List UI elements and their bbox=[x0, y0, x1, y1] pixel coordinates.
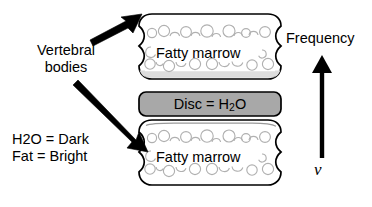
label-nu-symbol: ν bbox=[314, 160, 322, 180]
vertebral-body-top-endplate bbox=[139, 71, 281, 78]
label-vertebral-bodies-line2: bodies bbox=[14, 59, 118, 76]
label-fatty-marrow-top: Fatty marrow bbox=[156, 45, 241, 61]
label-frequency: Frequency bbox=[286, 30, 355, 47]
label-h2o-dark: H2O = Dark bbox=[12, 131, 89, 148]
label-fatty-marrow-bottom: Fatty marrow bbox=[156, 149, 241, 165]
label-signal-notes: H2O = Dark Fat = Bright bbox=[12, 131, 89, 165]
label-disc-equals-water: Disc = H2O bbox=[135, 96, 285, 113]
frequency-axis-arrow bbox=[312, 55, 332, 158]
label-vertebral-bodies-line1: Vertebral bbox=[14, 42, 118, 59]
label-fat-bright: Fat = Bright bbox=[12, 148, 89, 165]
label-disc-suffix: O bbox=[235, 96, 246, 112]
label-disc-prefix: Disc = H bbox=[174, 96, 229, 112]
diagram-canvas: Vertebral bodies H2O = Dark Fat = Bright… bbox=[0, 0, 372, 207]
label-vertebral-bodies: Vertebral bodies bbox=[14, 42, 118, 76]
